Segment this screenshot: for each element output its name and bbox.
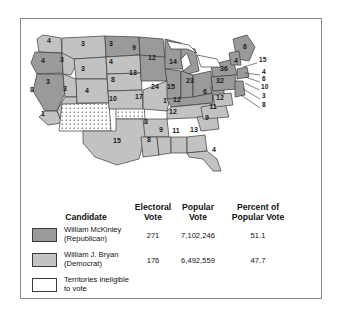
- state-vote-nevada: 3: [46, 78, 50, 85]
- state-indiana: [181, 71, 193, 101]
- leader-vote-new-jersey: 3: [262, 92, 266, 99]
- state-pennsylvania: [211, 75, 237, 91]
- state-oregon: [31, 52, 63, 74]
- results-table: Candidate Electoral Vote Popular Vote Pe…: [21, 199, 323, 299]
- state-florida: [187, 151, 221, 171]
- state-georgia: [187, 135, 207, 153]
- leader-vote-connecticut: 10: [261, 83, 269, 90]
- figure-frame: 4433338134348109131712142415231261281589…: [20, 18, 322, 299]
- legend-swatch-bryan: [32, 253, 57, 267]
- cell-electoral-vote: 176: [131, 256, 175, 265]
- territory-southwest: [59, 103, 111, 131]
- state-vote-illinois: 24: [151, 83, 159, 90]
- leader-vote-delaware: 8: [262, 101, 266, 108]
- state-vote-wyoming: 3: [81, 65, 85, 72]
- state-vote-virginia: 12: [216, 94, 224, 101]
- state-vote-kentucky: 12: [173, 96, 181, 103]
- lake-huron-erie: [197, 55, 221, 67]
- header-popular-vote-line2: Vote: [177, 213, 219, 223]
- state-vote-tennessee: 12: [169, 108, 177, 115]
- state-vote-wisconsin: 12: [148, 54, 156, 61]
- state-vote-montana: 3: [81, 40, 85, 47]
- state-vote-nebraska: 8: [111, 76, 115, 83]
- state-vote-south-dakota: 4: [109, 58, 113, 65]
- state-vote-north-dakota: 3: [109, 40, 113, 47]
- legend-territory-line2: to vote: [64, 285, 136, 294]
- state-colorado: [76, 79, 109, 103]
- state-alabama: [171, 137, 187, 153]
- election-map: 4433338134348109131712142415231261281589…: [21, 19, 323, 199]
- state-vote-minnesota: 9: [132, 44, 136, 51]
- state-vote-florida: 4: [212, 146, 216, 153]
- state-vote-idaho: 3: [60, 56, 64, 63]
- header-electoral-vote-line2: Vote: [131, 213, 175, 223]
- table-row: William McKinley (Republican) 271 7,102,…: [21, 227, 323, 251]
- state-vote-georgia: 13: [190, 126, 198, 133]
- legend-swatch-territory: [32, 278, 57, 292]
- state-vote-california: 8: [30, 86, 34, 93]
- state-vote-pennsylvania: 32: [216, 77, 224, 84]
- header-candidate: Candidate: [43, 213, 129, 223]
- us-map-svg: 4433338134348109131712142415231261281589…: [21, 19, 323, 199]
- legend-territory-label: Territories ineligible to vote: [64, 276, 136, 293]
- state-vote-washington: 4: [47, 37, 51, 44]
- cell-percent: 51.1: [225, 231, 291, 240]
- state-vote-colorado: 4: [85, 87, 89, 94]
- state-vote-texas: 15: [113, 137, 121, 144]
- header-electoral-vote: Electoral Vote: [131, 203, 175, 222]
- state-vote-south-carolina: 9: [205, 114, 209, 121]
- state-vote-kansas: 10: [109, 95, 117, 102]
- state-vote-missouri: 17: [135, 93, 143, 100]
- state-vote-west-virginia: 6: [203, 88, 207, 95]
- header-popular-vote: Popular Vote: [177, 203, 219, 222]
- legend-swatch-mckinley: [32, 228, 57, 242]
- leader-vote-numbers: 15461038: [259, 56, 269, 108]
- state-vote-california-south: 1: [41, 110, 45, 117]
- state-vote-alabama: 11: [172, 127, 180, 134]
- state-vote-north-carolina: 11: [209, 103, 217, 110]
- state-wyoming: [74, 57, 107, 79]
- state-vote-new-york: 36: [220, 65, 228, 72]
- state-vote-utah: 3: [63, 85, 67, 92]
- header-percent-line2: Popular Vote: [221, 213, 295, 223]
- cell-electoral-vote: 271: [131, 231, 175, 240]
- state-vote-louisiana: 8: [147, 136, 151, 143]
- state-vote-ohio: 23: [186, 77, 194, 84]
- candidate-party: (Republican): [64, 235, 136, 244]
- table-row: William J. Bryan (Democrat) 176 6,492,55…: [21, 252, 323, 276]
- header-percent: Percent of Popular Vote: [221, 203, 295, 222]
- table-row: Territories ineligible to vote: [21, 277, 323, 301]
- cell-percent: 47.7: [225, 256, 291, 265]
- state-vote-iowa: 13: [129, 69, 137, 76]
- cell-popular-vote: 6,492,559: [173, 256, 223, 265]
- state-vote-oregon: 4: [41, 57, 45, 64]
- leader-vote-rhode-island: 6: [262, 75, 266, 82]
- state-vote-arkansas: 8: [144, 118, 148, 125]
- state-mississippi: [157, 137, 171, 155]
- candidate-name: William McKinley (Republican): [64, 226, 136, 243]
- leader-vote-vermont: 15: [259, 56, 267, 63]
- candidate-name: William J. Bryan (Democrat): [64, 251, 136, 268]
- leader-vote-massachusetts: 4: [262, 68, 266, 75]
- candidate-party: (Democrat): [64, 260, 136, 269]
- state-vote-mississippi: 9: [159, 126, 163, 133]
- state-vote-missouri-small: 1: [163, 97, 167, 104]
- state-vote-indiana: 15: [167, 83, 175, 90]
- state-vote-michigan: 14: [169, 58, 177, 65]
- state-vote-new-hampshire: 4: [234, 57, 238, 64]
- state-vote-maine: 6: [243, 43, 247, 50]
- cell-popular-vote: 7,102,246: [173, 231, 223, 240]
